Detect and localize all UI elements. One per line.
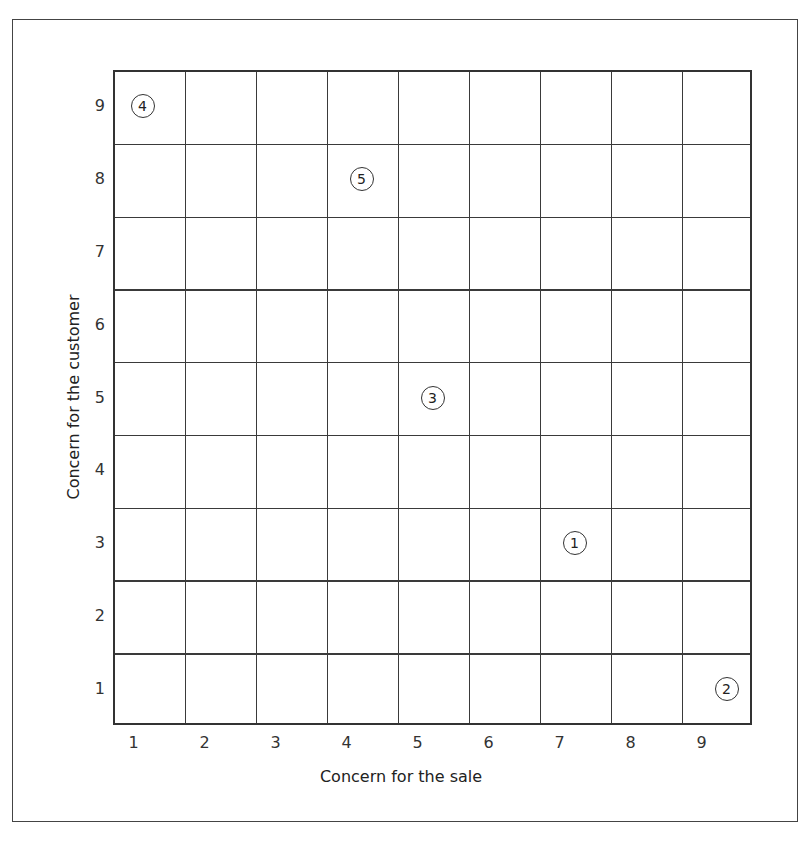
grid-vline xyxy=(682,72,683,723)
y-axis-label: Concern for the customer xyxy=(64,294,83,499)
grid-hline xyxy=(115,362,750,363)
y-tick-label: 8 xyxy=(85,169,105,188)
grid-hline xyxy=(115,653,750,654)
x-tick-label: 1 xyxy=(119,733,149,752)
grid-hline xyxy=(115,580,750,581)
x-tick-label: 7 xyxy=(545,733,575,752)
y-tick-label: 4 xyxy=(85,460,105,479)
x-tick-label: 4 xyxy=(332,733,362,752)
grid-vline xyxy=(469,72,470,723)
grid-hline xyxy=(115,144,750,145)
data-point-marker: 4 xyxy=(131,94,155,118)
y-tick-label: 1 xyxy=(85,679,105,698)
data-point-marker: 5 xyxy=(350,167,374,191)
y-tick-label: 5 xyxy=(85,388,105,407)
grid-vline xyxy=(185,72,186,723)
x-tick-label: 6 xyxy=(474,733,504,752)
y-tick-label: 3 xyxy=(85,533,105,552)
grid-vline xyxy=(327,72,328,723)
y-tick-label: 9 xyxy=(85,96,105,115)
data-point-marker: 2 xyxy=(715,677,739,701)
x-tick-label: 9 xyxy=(687,733,717,752)
data-point-marker: 1 xyxy=(563,531,587,555)
grid-hline xyxy=(115,435,750,436)
y-tick-label: 2 xyxy=(85,606,105,625)
x-tick-label: 3 xyxy=(261,733,291,752)
grid-vline xyxy=(611,72,612,723)
grid-vline xyxy=(540,72,541,723)
x-axis-label: Concern for the sale xyxy=(0,767,802,786)
grid-hline xyxy=(115,217,750,218)
x-tick-label: 5 xyxy=(403,733,433,752)
y-tick-label: 6 xyxy=(85,315,105,334)
grid-vline xyxy=(398,72,399,723)
x-tick-label: 8 xyxy=(616,733,646,752)
grid-hline xyxy=(115,289,750,290)
x-tick-label: 2 xyxy=(190,733,220,752)
grid-vline xyxy=(256,72,257,723)
y-tick-label: 7 xyxy=(85,242,105,261)
grid-hline xyxy=(115,508,750,509)
data-point-marker: 3 xyxy=(421,386,445,410)
